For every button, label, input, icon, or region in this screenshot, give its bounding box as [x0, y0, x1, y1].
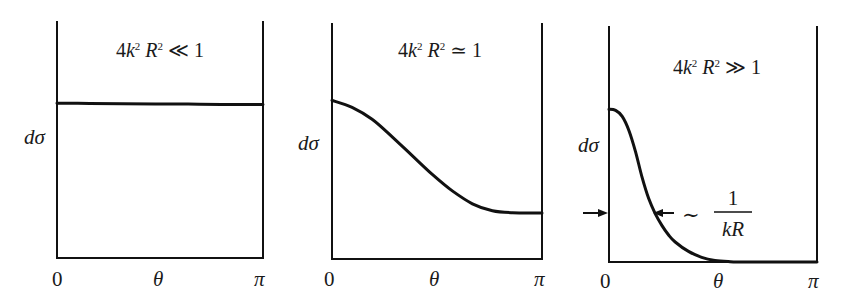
cross-section-curve — [57, 103, 263, 104]
cross-section-figure: 4k2 R2 ≪ 1 dσ 0 θ π 4k2 R2 ≃ 1 dσ 0 θ π … — [0, 0, 847, 303]
cross-section-curve — [332, 100, 542, 213]
tilde-symbol: ∼ — [682, 203, 700, 227]
fraction-numerator: 1 — [728, 186, 739, 210]
panel-large-kr: 4k2 R2 ≫ 1 dσ 0 θ π ∼ 1 kR — [578, 27, 819, 293]
panel-title: 4k2 R2 ≫ 1 — [673, 56, 761, 78]
x-axis-label: θ — [153, 267, 163, 291]
x-tick-zero: 0 — [52, 267, 63, 291]
panel-small-kr: 4k2 R2 ≪ 1 dσ 0 θ π — [24, 22, 265, 291]
axis-frame — [57, 22, 263, 258]
x-tick-pi: π — [534, 267, 545, 291]
x-tick-pi: π — [254, 267, 265, 291]
x-axis-label: θ — [713, 269, 723, 293]
left-arrowhead-icon — [598, 209, 608, 217]
y-axis-label: dσ — [578, 133, 601, 157]
panel-unit-kr: 4k2 R2 ≃ 1 dσ 0 θ π — [298, 24, 545, 291]
x-tick-zero: 0 — [600, 269, 611, 293]
panel-title: 4k2 R2 ≪ 1 — [116, 39, 204, 61]
x-tick-pi: π — [808, 269, 819, 293]
x-tick-zero: 0 — [324, 267, 335, 291]
y-axis-label: dσ — [298, 131, 321, 155]
panel-title: 4k2 R2 ≃ 1 — [398, 39, 482, 61]
y-axis-label: dσ — [24, 125, 47, 149]
cross-section-curve — [609, 109, 817, 262]
x-axis-label: θ — [429, 267, 439, 291]
fraction-denominator: kR — [722, 217, 744, 241]
